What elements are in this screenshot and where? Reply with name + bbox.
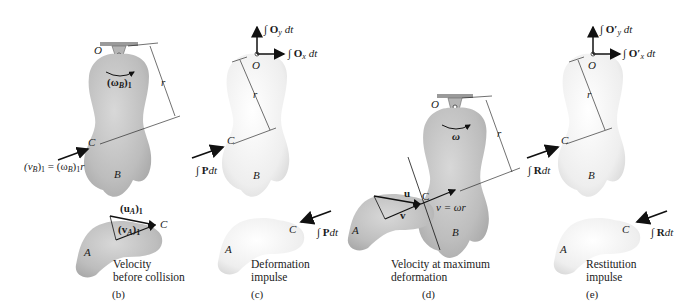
pivot-label-c: O <box>252 59 260 72</box>
caption-e-line1: Restitution <box>586 258 636 271</box>
figure-id-c: (c) <box>251 288 263 300</box>
r-label-d: r <box>497 127 501 140</box>
pivot-label-b: O <box>94 44 102 57</box>
restitution-impulse-arrow-icon <box>527 147 558 158</box>
deformation-impulse-on-a-arrow-icon <box>301 211 331 222</box>
figure-id-e: (e) <box>586 288 598 300</box>
caption-e-line2: impulse <box>586 271 622 284</box>
figure-e <box>527 27 667 274</box>
pivot-label-d: O <box>431 98 439 111</box>
body-b-label-e: B <box>588 169 595 182</box>
caption-d-line2: deformation <box>391 271 447 284</box>
contact-label-c: C <box>227 134 234 147</box>
caption-c-line2: impulse <box>251 271 287 284</box>
body-a-label-c: A <box>225 243 232 256</box>
r-label-e: r <box>587 88 591 101</box>
contact-label-b: C <box>88 136 95 149</box>
body-b-label-b: B <box>114 168 121 181</box>
caption-c-line1: Deformation <box>251 258 310 271</box>
impulse-oy-label-c: ∫ Oy dt <box>264 23 293 39</box>
a-contact-label-c: C <box>289 223 296 236</box>
velocity-eq-b: (vB)1 = (ωB)1r <box>24 160 85 176</box>
body-a-label-e: A <box>560 243 567 256</box>
omega-label-d: ω <box>452 130 460 143</box>
deformation-impulse-arrow-icon <box>192 147 223 158</box>
figure-id-b: (b) <box>112 288 125 300</box>
figure-d <box>348 94 520 258</box>
a-contact-label-b: C <box>160 218 167 231</box>
restitution-impulse-on-a-arrow-icon <box>637 211 667 222</box>
u-label-d: u <box>404 187 410 200</box>
v-label-d: v <box>400 209 406 222</box>
caption-b-line2: before collision <box>113 271 185 284</box>
pivot-label-e: O <box>588 59 596 72</box>
figure-c <box>192 27 331 274</box>
contact-label-d: C <box>422 190 429 203</box>
impulse-ox-label-e: ∫ O′x dt <box>623 47 655 63</box>
body-b-label-c: B <box>253 169 260 182</box>
r-label-b: r <box>161 76 165 89</box>
impulse-ox-label-c: ∫ Ox dt <box>288 47 317 63</box>
velocity-arrow-icon <box>58 149 88 160</box>
impulse-label-c: ∫ Pdt <box>196 164 217 177</box>
figure-id-d: (d) <box>422 288 435 300</box>
speed-eq-d: v = ωr <box>436 201 466 214</box>
caption-d-line1: Velocity at maximum <box>391 258 490 271</box>
impulse-oy-label-e: ∫ O′y dt <box>600 23 632 39</box>
impulse-on-a-label-c: ∫ Pdt <box>317 226 338 239</box>
r-label-c: r <box>253 88 257 101</box>
va-label-b: (vA)1 <box>118 223 140 239</box>
body-a-label-d: A <box>352 224 359 237</box>
impulse-on-a-label-e: ∫ Rdt <box>651 226 673 239</box>
caption-b-line1: Velocity <box>113 258 151 271</box>
a-contact-label-e: C <box>622 223 629 236</box>
omega-label-b: (ωB)1 <box>107 76 132 92</box>
body-b-label-d: B <box>452 226 459 239</box>
contact-label-e: C <box>561 134 568 147</box>
impulse-label-e: ∫ Rdt <box>528 164 550 177</box>
body-a-label-b: A <box>84 246 91 259</box>
ua-label-b: (uA)1 <box>120 202 143 218</box>
